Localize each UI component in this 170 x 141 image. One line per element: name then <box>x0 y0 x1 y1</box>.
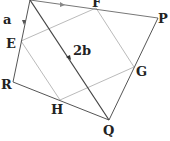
diagonal-2b <box>30 0 109 120</box>
label-R: R <box>1 78 12 91</box>
label-P: P <box>158 12 168 25</box>
side-pq <box>109 18 158 120</box>
label-2b: 2b <box>73 44 91 57</box>
label-G: G <box>136 65 147 78</box>
diagram-canvas: a 2b F P E G R H Q <box>0 0 170 141</box>
label-a: a <box>3 13 11 26</box>
label-F: F <box>92 0 101 9</box>
label-Q: Q <box>103 124 114 137</box>
label-E: E <box>6 37 16 50</box>
label-H: H <box>51 103 63 116</box>
